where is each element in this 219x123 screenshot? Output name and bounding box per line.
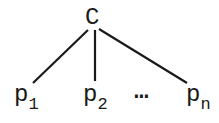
child-node-n: pn — [186, 83, 211, 107]
child-node-2: p2 — [83, 83, 108, 107]
root-label: C — [85, 4, 99, 31]
ellipsis: ⋯ — [134, 86, 148, 110]
edge-c-pn — [99, 29, 187, 83]
root-node: C — [85, 6, 99, 30]
edge-c-p1 — [33, 30, 88, 83]
child-node-1: p1 — [14, 83, 39, 107]
